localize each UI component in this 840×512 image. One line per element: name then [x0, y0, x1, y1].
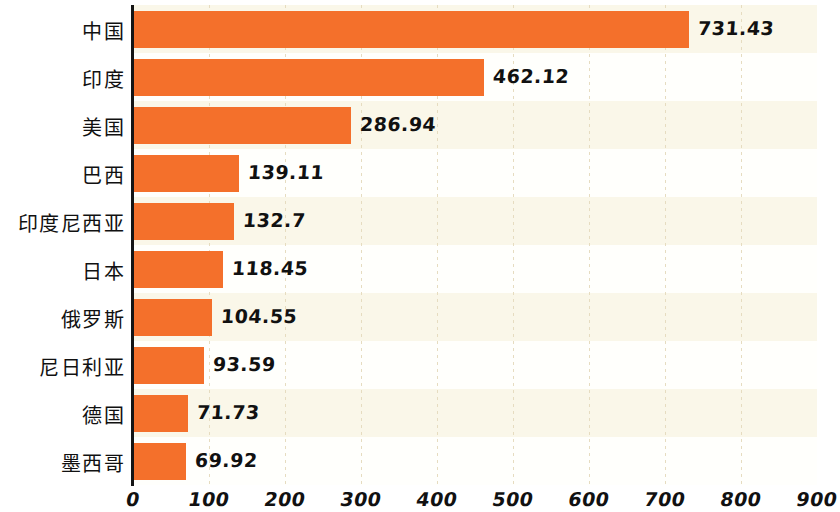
category-label: 俄罗斯 [5, 304, 133, 333]
bar-value-label: 286.94 [359, 113, 437, 135]
bar-value-label: 731.43 [697, 17, 775, 39]
bar-value-label: 132.7 [242, 209, 306, 231]
bar [133, 107, 351, 144]
bar-value-label: 71.73 [196, 401, 260, 423]
row-band [133, 197, 817, 245]
x-tick-label: 700 [642, 488, 687, 510]
gridline [665, 5, 666, 485]
bar-value-label: 93.59 [212, 353, 276, 375]
category-label: 巴西 [5, 160, 133, 189]
category-label: 日本 [5, 256, 133, 285]
category-label: 中国 [5, 16, 133, 45]
x-tick-label: 200 [262, 488, 307, 510]
x-tick-label: 900 [794, 488, 839, 510]
x-tick-label: 0 [124, 488, 142, 510]
bar [133, 347, 204, 384]
bar [133, 395, 188, 432]
category-label: 尼日利亚 [5, 352, 133, 381]
x-tick-label: 600 [566, 488, 611, 510]
bar-value-label: 118.45 [231, 257, 309, 279]
category-axis-labels: 中国印度美国巴西印度尼西亚日本俄罗斯尼日利亚德国墨西哥 [0, 5, 133, 485]
gridline [589, 5, 590, 485]
x-tick-label: 300 [338, 488, 383, 510]
gridline [741, 5, 742, 485]
category-label: 美国 [5, 112, 133, 141]
bar-value-label: 69.92 [194, 449, 258, 471]
category-label: 德国 [5, 400, 133, 429]
category-label: 印度 [5, 64, 133, 93]
bar-value-label: 139.11 [247, 161, 325, 183]
bar-value-label: 104.55 [221, 305, 299, 327]
x-tick-label: 400 [414, 488, 459, 510]
bar [133, 155, 239, 192]
bar [133, 251, 223, 288]
bar-value-label: 462.12 [492, 65, 570, 87]
bar [133, 11, 689, 48]
x-tick-label: 800 [718, 488, 763, 510]
bar [133, 203, 234, 240]
x-axis-tick-labels: 0100200300400500600700800900 [133, 486, 817, 512]
x-tick-label: 500 [490, 488, 535, 510]
x-tick-label: 100 [186, 488, 231, 510]
bar [133, 59, 484, 96]
bar [133, 443, 186, 480]
category-label: 墨西哥 [5, 448, 133, 477]
bar [133, 299, 212, 336]
category-label: 印度尼西亚 [5, 208, 133, 237]
